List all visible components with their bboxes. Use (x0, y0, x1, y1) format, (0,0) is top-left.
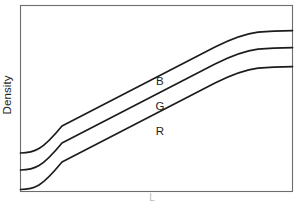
y-axis-title: Density (1, 75, 13, 114)
characteristic-curve-chart: B G R Density L (0, 0, 301, 204)
series-label-g: G (155, 100, 164, 112)
chart-canvas: B G R Density L (0, 0, 301, 204)
series-label-b: B (156, 75, 164, 87)
series-label-r: R (156, 125, 165, 137)
x-axis-title: L (149, 192, 155, 203)
